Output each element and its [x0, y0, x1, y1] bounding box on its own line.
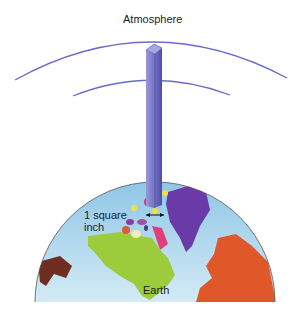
atmospheric-pressure-diagram	[0, 0, 299, 312]
earth-label: Earth	[143, 284, 169, 296]
square-inch-label-line1: 1 square	[84, 209, 127, 221]
air-column	[146, 44, 162, 208]
atmosphere-label: Atmosphere	[123, 13, 182, 25]
square-inch-label-line2: inch	[84, 221, 104, 233]
